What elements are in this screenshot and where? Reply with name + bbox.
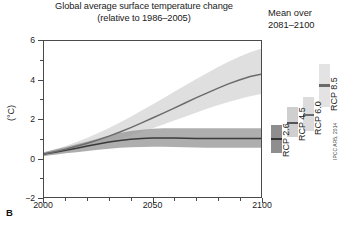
chart-title-line2: (relative to 1986–2005) bbox=[26, 13, 262, 25]
x-tick-mark-minor bbox=[131, 198, 132, 201]
x-tick-label: 2100 bbox=[252, 200, 272, 210]
mean-bar-label-rcp-4-5: RCP 4.5 bbox=[297, 107, 307, 141]
x-tick-mark-minor bbox=[240, 198, 241, 201]
chart-title-line1: Global average surface temperature chang… bbox=[55, 1, 233, 11]
y-tick-label: 4 bbox=[30, 75, 35, 85]
figure-panel-b: Global average surface temperature chang… bbox=[0, 0, 355, 238]
mean-over-line1: Mean over bbox=[268, 8, 312, 18]
mean-bar-label-rcp-2-6: RCP 2.6 bbox=[281, 123, 291, 157]
y-tick-label: 0 bbox=[30, 154, 35, 164]
mean-over-heading: Mean over 2081–2100 bbox=[268, 8, 354, 31]
mean-bar-label-rcp-8-5: RCP 8.5 bbox=[329, 77, 339, 111]
y-axis-label: (°C) bbox=[6, 93, 16, 133]
mean-bar-rcp-2-6 bbox=[271, 40, 282, 198]
temperature-projection-lines bbox=[44, 41, 261, 197]
x-tick-mark-minor bbox=[109, 198, 110, 201]
y-tick-label: 6 bbox=[30, 35, 35, 45]
mean-bar-label-rcp-6-0: RCP 6.0 bbox=[313, 101, 323, 135]
y-tick-label: 2 bbox=[30, 114, 35, 124]
mean-bars-panel bbox=[262, 40, 355, 198]
plot-area bbox=[43, 40, 262, 198]
source-credit: IPCC AR5, 2014 bbox=[333, 123, 338, 160]
chart-title: Global average surface temperature chang… bbox=[26, 1, 262, 24]
x-tick-label: 2000 bbox=[33, 200, 53, 210]
panel-label: B bbox=[6, 207, 13, 218]
x-tick-label: 2050 bbox=[143, 200, 163, 210]
x-tick-mark-minor bbox=[218, 198, 219, 201]
mean-over-line2: 2081–2100 bbox=[268, 20, 354, 32]
x-tick-mark-minor bbox=[196, 198, 197, 201]
x-tick-mark-minor bbox=[65, 198, 66, 201]
x-tick-mark-minor bbox=[87, 198, 88, 201]
x-tick-mark-minor bbox=[174, 198, 175, 201]
